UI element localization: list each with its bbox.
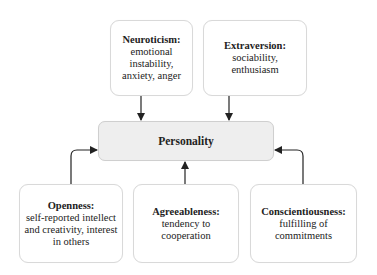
arrow-conscientiousness	[275, 150, 303, 184]
extraversion-title: Extraversion:	[224, 40, 286, 52]
agreeableness-desc-1: tendency to cooperation	[138, 218, 234, 242]
openness-desc-2: and creativity, interest	[25, 224, 118, 236]
personality-box: Personality	[98, 121, 274, 161]
neuroticism-desc-2: anxiety, anger	[122, 70, 181, 82]
extraversion-box: Extraversion: sociability, enthusiasm	[203, 20, 307, 96]
agreeableness-title: Agreeableness:	[152, 206, 219, 218]
conscientiousness-title: Conscientiousness:	[261, 206, 346, 218]
openness-box: Openness: self-reported intellect and cr…	[19, 184, 123, 263]
neuroticism-box: Neuroticism: emotional instability, anxi…	[110, 20, 193, 96]
agreeableness-box: Agreeableness: tendency to cooperation	[133, 184, 239, 263]
conscientiousness-desc-2: commitments	[275, 230, 332, 242]
arrow-openness	[71, 150, 97, 184]
conscientiousness-desc-1: fulfilling of	[279, 218, 328, 230]
neuroticism-desc-1: emotional instability,	[115, 46, 188, 70]
openness-desc-3: in others	[53, 236, 89, 248]
extraversion-desc-1: sociability, enthusiasm	[208, 52, 302, 76]
conscientiousness-box: Conscientiousness: fulfilling of commitm…	[250, 184, 357, 263]
personality-title: Personality	[158, 135, 214, 147]
openness-title: Openness:	[48, 200, 95, 212]
neuroticism-title: Neuroticism:	[122, 34, 180, 46]
openness-desc-1: self-reported intellect	[26, 212, 116, 224]
